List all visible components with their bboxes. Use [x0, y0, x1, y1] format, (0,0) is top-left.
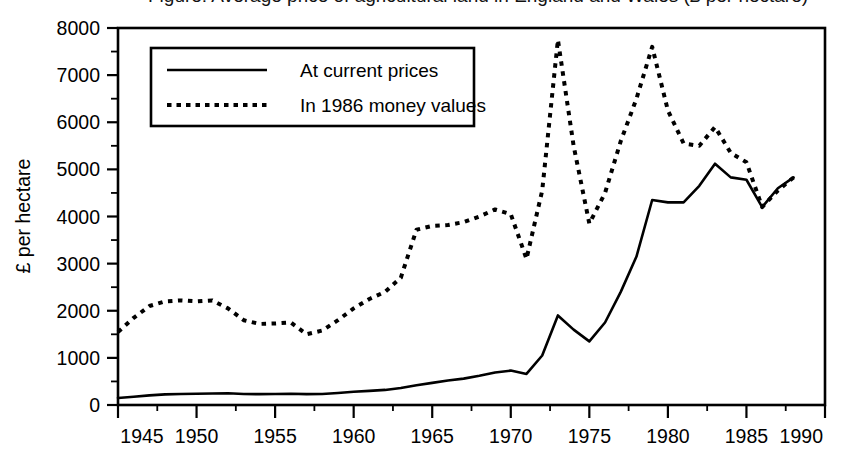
- series-line-at-current-prices: [118, 164, 794, 398]
- y-axis-major-ticks: [107, 28, 118, 405]
- y-tick-label-7000: 7000: [57, 64, 101, 86]
- y-axis-tick-labels: 010002000300040005000600070008000: [57, 17, 101, 416]
- x-tick-label-1945: 1945: [120, 425, 164, 447]
- legend: At current prices In 1986 money values: [151, 48, 486, 126]
- x-axis-tick-labels: 1945195019551960196519701975198019851990: [120, 425, 823, 447]
- x-tick-label-1960: 1960: [332, 425, 376, 447]
- x-tick-label-1955: 1955: [253, 425, 297, 447]
- x-tick-label-1990: 1990: [780, 425, 824, 447]
- y-tick-label-3000: 3000: [57, 253, 101, 275]
- x-tick-label-1965: 1965: [411, 425, 455, 447]
- legend-label-in-1986-money-values: In 1986 money values: [300, 95, 486, 116]
- legend-label-at-current-prices: At current prices: [300, 60, 438, 81]
- x-tick-label-1950: 1950: [175, 425, 219, 447]
- y-tick-label-0: 0: [89, 394, 100, 416]
- y-tick-label-1000: 1000: [57, 347, 101, 369]
- y-tick-label-4000: 4000: [57, 206, 101, 228]
- figure-container: Figure: Average price of agricultural la…: [0, 0, 842, 458]
- x-tick-label-1985: 1985: [725, 425, 769, 447]
- x-tick-label-1970: 1970: [489, 425, 533, 447]
- x-tick-label-1980: 1980: [646, 425, 690, 447]
- y-tick-label-2000: 2000: [57, 300, 101, 322]
- y-tick-label-6000: 6000: [57, 111, 101, 133]
- land-price-line-chart: 010002000300040005000600070008000 194519…: [0, 0, 842, 458]
- y-axis-title: £ per hectare: [12, 159, 34, 274]
- x-tick-label-1975: 1975: [568, 425, 612, 447]
- y-tick-label-8000: 8000: [57, 17, 101, 39]
- y-tick-label-5000: 5000: [57, 158, 101, 180]
